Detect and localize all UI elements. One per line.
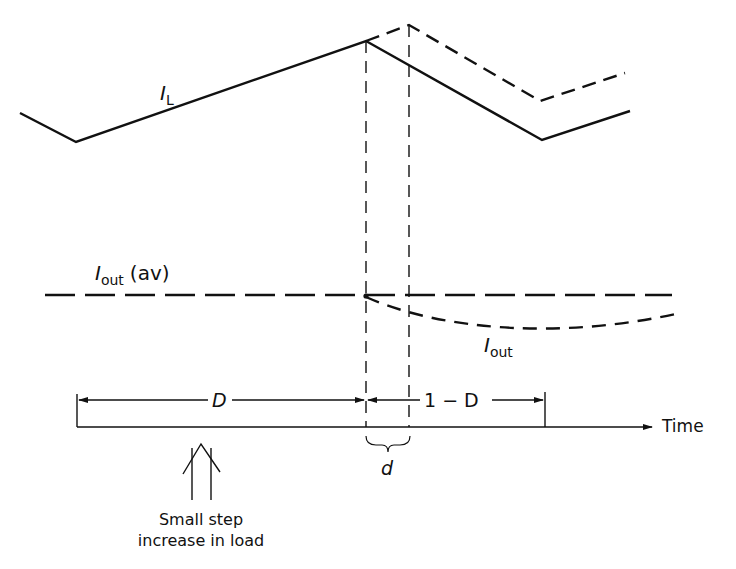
load-step-arrow-icon bbox=[183, 444, 220, 500]
inductor-current-label: IL bbox=[160, 81, 174, 108]
delta-label: d bbox=[381, 457, 394, 479]
duty-off-label: 1 − D bbox=[424, 389, 479, 411]
annotation-line-1: Small step bbox=[159, 510, 243, 529]
output-current-average-label: Iout(av) bbox=[95, 261, 170, 288]
inductor-current-waveform bbox=[20, 41, 630, 142]
time-axis-label: Time bbox=[661, 416, 704, 436]
output-current-label: Iout bbox=[484, 333, 513, 360]
output-current-curve bbox=[366, 297, 680, 329]
duty-on-label: D bbox=[212, 389, 227, 411]
delta-brace bbox=[366, 436, 410, 452]
waveform-diagram: IL Iout(av) Iout Time D 1 − D d Small st… bbox=[0, 0, 736, 569]
annotation-line-2: increase in load bbox=[138, 531, 264, 550]
